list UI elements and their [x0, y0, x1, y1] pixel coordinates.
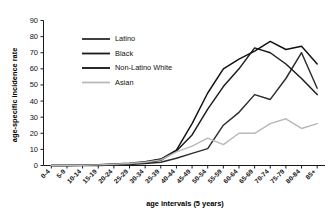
y-axis-title: age-specific incidence rate [10, 48, 19, 142]
y-tick-label: 40 [30, 97, 38, 106]
x-tick-label: 30-34 [128, 168, 145, 185]
y-tick-label: 90 [30, 16, 38, 25]
series-lines-group [51, 41, 317, 165]
x-tick-label: 50-54 [191, 168, 208, 185]
x-tick-label: 85+ [304, 168, 317, 181]
x-axis-title: age intervals (5 years) [146, 199, 224, 208]
chart-container: 0102030405060708090 0-45-910-1415-1920-2… [0, 0, 336, 219]
legend-label-asian: Asian [115, 78, 134, 87]
x-tick-label: 40-44 [159, 168, 176, 185]
y-tick-label: 50 [30, 80, 38, 89]
x-tick-label: 60-64 [222, 168, 239, 185]
y-tick-label: 80 [30, 32, 38, 41]
x-axis-group: 0-45-910-1415-1920-2425-2930-3435-3940-4… [39, 166, 325, 185]
x-tick-label: 10-14 [65, 168, 82, 185]
series-line-black [51, 48, 317, 166]
legend-label-black: Black [115, 49, 133, 58]
y-tick-label: 70 [30, 48, 38, 57]
x-tick-label: 15-19 [81, 168, 98, 185]
y-axis-group: 0102030405060708090 [30, 16, 44, 170]
x-tick-label: 80-84 [284, 168, 301, 185]
x-tick-label: 0-4 [39, 168, 51, 180]
y-tick-label: 30 [30, 113, 38, 122]
y-tick-label: 20 [30, 129, 38, 138]
x-tick-label: 35-39 [144, 168, 161, 185]
y-tick-label: 60 [30, 64, 38, 73]
x-tick-label: 75-79 [269, 168, 286, 185]
x-tick-label: 25-29 [112, 168, 129, 185]
x-tick-label: 65-69 [237, 168, 254, 185]
x-axis-ticks: 0-45-910-1415-1920-2425-2930-3435-3940-4… [39, 166, 317, 185]
x-tick-label: 70-74 [253, 168, 270, 185]
y-tick-label: 10 [30, 145, 38, 154]
incidence-rate-line-chart: 0102030405060708090 0-45-910-1415-1920-2… [0, 0, 336, 219]
series-line-non-latino-white [51, 41, 317, 165]
y-axis-ticks: 0102030405060708090 [30, 16, 44, 170]
chart-legend: LatinoBlackNon-Latino WhiteAsian [82, 34, 172, 87]
x-tick-label: 20-24 [97, 168, 114, 185]
legend-label-non-latino-white: Non-Latino White [115, 63, 172, 72]
x-tick-label: 45-49 [175, 168, 192, 185]
x-tick-label: 5-9 [55, 168, 67, 180]
y-tick-label: 0 [34, 161, 38, 170]
x-tick-label: 55-59 [206, 168, 223, 185]
legend-label-latino: Latino [115, 34, 135, 43]
